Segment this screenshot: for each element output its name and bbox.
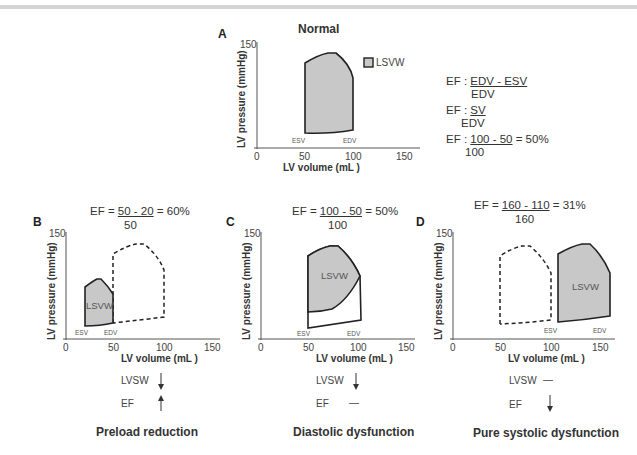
ef-down-arrow-icon: [0, 0, 637, 455]
panel-d-title: Pure systolic dysfunction: [473, 426, 619, 440]
